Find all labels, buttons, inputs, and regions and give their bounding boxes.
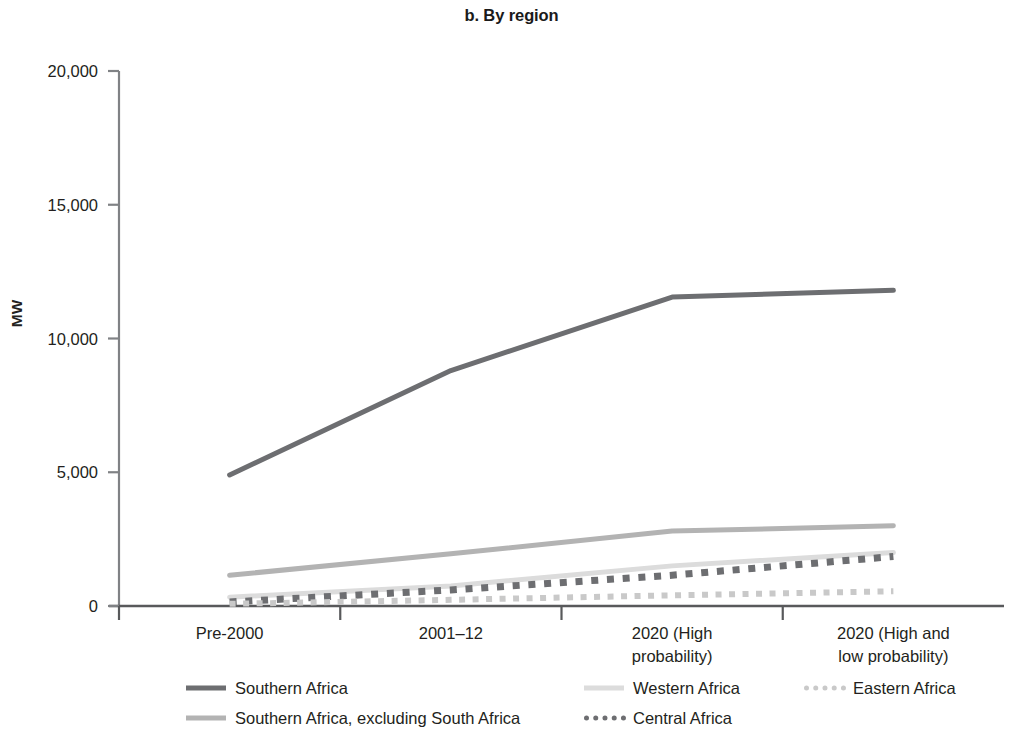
legend-swatch-solid-icon — [584, 681, 624, 695]
legend-item: Central Africa — [584, 705, 732, 731]
legend-item: Eastern Africa — [804, 675, 956, 701]
legend-swatch-solid-icon — [186, 711, 226, 725]
y-axis-tick-label: 10,000 — [48, 330, 98, 348]
legend-swatch-bar — [584, 686, 624, 691]
legend-swatch-dotted-icon — [804, 681, 844, 695]
legend-item: Southern Africa, excluding South Africa — [186, 705, 520, 731]
y-axis-tick-label: 15,000 — [48, 196, 98, 214]
figure-container: b. By region 05,00010,00015,00020,000MWP… — [0, 0, 1023, 733]
line-chart-plot: 05,00010,00015,00020,000MWPre-20002001–1… — [0, 0, 1023, 675]
legend-label: Eastern Africa — [853, 675, 956, 701]
chart-legend: Southern AfricaWestern AfricaEastern Afr… — [186, 675, 1006, 733]
y-axis-tick-label: 0 — [89, 597, 98, 615]
x-axis-category-label: probability) — [632, 647, 713, 665]
x-axis-category-label: Pre-2000 — [196, 624, 264, 642]
legend-swatch-bar — [186, 716, 226, 721]
x-axis-category-label: low probability) — [838, 647, 948, 665]
legend-item: Southern Africa — [186, 675, 348, 701]
series-line-southern-africa-excluding-south-africa — [230, 526, 894, 575]
y-axis-tick-label: 5,000 — [57, 463, 98, 481]
legend-swatch-dotted-icon — [584, 711, 624, 725]
series-line-western-africa — [230, 553, 894, 598]
legend-label: Central Africa — [633, 705, 732, 731]
x-axis-category-label: 2020 (High and — [837, 624, 950, 642]
y-axis-title: MW — [8, 299, 25, 327]
legend-item: Western Africa — [584, 675, 740, 701]
legend-label: Southern Africa — [235, 675, 348, 701]
legend-label: Southern Africa, excluding South Africa — [235, 705, 520, 731]
legend-label: Western Africa — [633, 675, 740, 701]
legend-swatch-bar — [584, 716, 626, 721]
x-axis-category-label: 2020 (High — [632, 624, 713, 642]
x-axis-category-label: 2001–12 — [419, 624, 483, 642]
y-axis-tick-label: 20,000 — [48, 62, 98, 80]
legend-swatch-solid-icon — [186, 681, 226, 695]
legend-swatch-bar — [804, 686, 846, 691]
legend-swatch-bar — [186, 686, 226, 691]
series-line-southern-africa — [230, 290, 894, 475]
